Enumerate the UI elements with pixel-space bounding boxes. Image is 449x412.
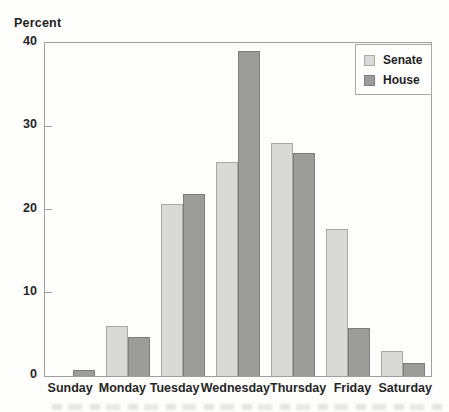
- legend-swatch-senate: [364, 55, 375, 66]
- bar-house-sunday: [73, 370, 95, 376]
- bar-group-wednesday: [216, 43, 260, 376]
- y-axis-title: Percent: [14, 16, 61, 30]
- y-tick-label-0: 0: [0, 367, 37, 381]
- x-label-friday: Friday: [326, 381, 378, 395]
- legend-swatch-house: [364, 75, 375, 86]
- x-axis-labels: SundayMondayTuesdayWednesdayThursdayFrid…: [44, 381, 432, 395]
- legend-item-house: House: [364, 73, 422, 87]
- bar-senate-wednesday: [216, 162, 238, 376]
- x-label-saturday: Saturday: [379, 381, 433, 395]
- bar-house-thursday: [293, 153, 315, 376]
- bar-house-monday: [128, 337, 150, 376]
- bar-senate-tuesday: [161, 204, 183, 376]
- bar-house-saturday: [403, 363, 425, 376]
- y-tick-label-40: 40: [0, 34, 37, 48]
- bar-group-monday: [106, 43, 150, 376]
- bar-senate-saturday: [381, 351, 403, 376]
- bar-house-wednesday: [238, 51, 260, 376]
- bar-group-thursday: [271, 43, 315, 376]
- x-label-thursday: Thursday: [270, 381, 326, 395]
- bar-chart-figure: Percent SundayMondayTuesdayWednesdayThur…: [0, 0, 449, 412]
- legend: SenateHouse: [355, 44, 432, 95]
- legend-item-senate: Senate: [364, 53, 422, 67]
- bar-group-sunday: [51, 43, 95, 376]
- y-tick-30: [45, 126, 52, 127]
- bar-senate-friday: [326, 229, 348, 376]
- bar-group-tuesday: [161, 43, 205, 376]
- cutoff-print-bleed: [52, 404, 442, 410]
- y-tick-label-10: 10: [0, 284, 37, 298]
- bar-senate-thursday: [271, 143, 293, 376]
- y-tick-10: [45, 292, 52, 293]
- legend-label-house: House: [383, 73, 420, 87]
- bar-house-tuesday: [183, 194, 205, 376]
- bar-senate-monday: [106, 326, 128, 376]
- x-label-tuesday: Tuesday: [149, 381, 201, 395]
- bar-house-friday: [348, 328, 370, 376]
- x-label-sunday: Sunday: [44, 381, 96, 395]
- legend-label-senate: Senate: [383, 53, 422, 67]
- x-label-monday: Monday: [96, 381, 148, 395]
- y-tick-label-20: 20: [0, 201, 37, 215]
- x-label-wednesday: Wednesday: [201, 381, 270, 395]
- y-tick-20: [45, 209, 52, 210]
- y-tick-label-30: 30: [0, 117, 37, 131]
